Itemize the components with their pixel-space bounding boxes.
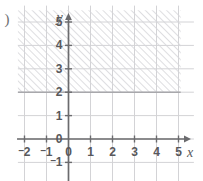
axis-x [17, 136, 191, 143]
y-tick-label-1: 4 [47, 39, 63, 51]
y-axis-label: y [57, 11, 63, 25]
x-tick-label-0: −2 [15, 146, 35, 158]
y-tick-label-4: 1 [47, 110, 63, 122]
x-tick-label-4: 2 [103, 146, 123, 158]
shaded-region-y-ge-2 [18, 10, 181, 92]
y-tick-label-6: −1 [47, 156, 63, 168]
x-axis-label: x [187, 146, 193, 160]
y-tick-label-5: 0 [47, 133, 63, 145]
x-tick-label-7: 5 [169, 146, 189, 158]
y-tick-label-2: 3 [47, 63, 63, 75]
figure-canvas: ) [0, 0, 203, 181]
x-tick-label-3: 1 [81, 146, 101, 158]
y-tick-label-3: 2 [47, 86, 63, 98]
x-tick-label-6: 4 [147, 146, 167, 158]
x-tick-label-5: 3 [125, 146, 145, 158]
coordinate-plane: −2−1012345 543210−1 x y [0, 0, 203, 181]
